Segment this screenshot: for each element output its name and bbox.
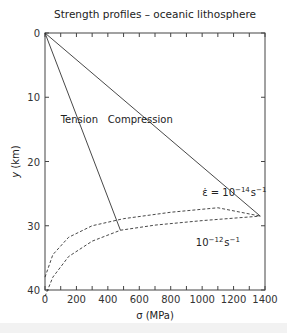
x-tick-label: 1000: [189, 294, 214, 305]
annotation-compression: Compression: [108, 114, 173, 125]
x-tick-label: 600: [130, 294, 149, 305]
annotation-tension: Tension: [60, 114, 98, 125]
y-tick-label: 30: [27, 221, 40, 232]
annotation-rate-1e-14: ε̇ = 10−14s−1: [202, 186, 266, 198]
x-tick-label: 1400: [252, 294, 277, 305]
y-tick-label: 0: [34, 28, 40, 39]
y-axis-label: y (km): [10, 145, 21, 179]
chart-container: Strength profiles – oceanic lithosphere …: [0, 0, 287, 333]
x-axis-label: σ (MPa): [136, 310, 174, 321]
chart-plot: 0200400600800100012001400010203040σ (MPa…: [0, 0, 287, 333]
annotation-rate-1e-12: 10−12s−1: [196, 236, 240, 248]
y-tick-label: 20: [27, 157, 40, 168]
x-tick-label: 200: [67, 294, 86, 305]
y-tick-label: 10: [27, 92, 40, 103]
plot-frame: [45, 33, 265, 290]
x-tick-label: 800: [161, 294, 180, 305]
series-tension: [45, 33, 120, 230]
x-tick-label: 400: [98, 294, 117, 305]
series-10-12-s-1: [45, 216, 260, 296]
x-tick-label: 1200: [221, 294, 246, 305]
bottom-bar: [0, 323, 287, 333]
y-tick-label: 40: [27, 285, 40, 296]
